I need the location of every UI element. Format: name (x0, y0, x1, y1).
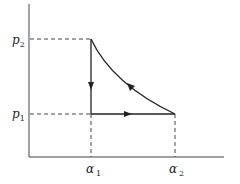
p1-label: p1 (12, 107, 25, 123)
alpha1-label: α1 (86, 162, 101, 178)
alpha2-label: α2 (169, 162, 184, 178)
compression-curve-path (91, 39, 175, 114)
arrow-down-icon (88, 82, 94, 90)
p-alpha-diagram: p2 p1 α1 α2 (0, 0, 240, 184)
arrow-right-icon (124, 111, 132, 117)
p2-label: p2 (12, 33, 25, 49)
